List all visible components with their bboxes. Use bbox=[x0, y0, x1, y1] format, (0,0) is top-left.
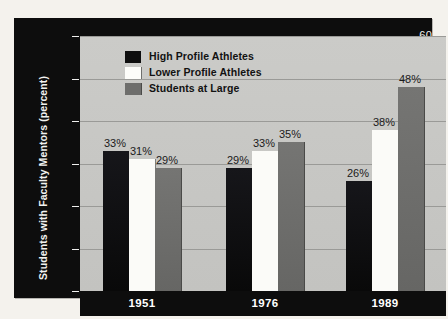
y-tick-mark bbox=[72, 121, 79, 122]
x-axis: 195119761989 bbox=[80, 291, 446, 316]
y-tick-mark bbox=[72, 249, 79, 250]
y-tick-mark bbox=[72, 164, 79, 165]
bar bbox=[103, 151, 129, 291]
bar bbox=[226, 168, 252, 291]
legend-label-high-profile-athletes: High Profile Athletes bbox=[149, 50, 254, 62]
bar bbox=[372, 130, 399, 292]
y-tick-mark bbox=[72, 206, 79, 207]
bar-value-label: 29% bbox=[156, 154, 178, 166]
figure-frame: Students with Faculty Mentors (percent) … bbox=[14, 18, 432, 298]
legend-swatch-icon-high-profile-athletes bbox=[125, 51, 141, 63]
bar bbox=[252, 151, 279, 291]
y-axis-title: Students with Faculty Mentors (percent) bbox=[37, 76, 49, 280]
legend-label-students-at-large: Students at Large bbox=[149, 82, 239, 94]
bar bbox=[278, 142, 305, 291]
bar-value-label: 35% bbox=[279, 128, 301, 140]
bar-value-label: 33% bbox=[104, 137, 126, 149]
bar bbox=[155, 168, 182, 291]
plot-area: 33%31%29%29%33%35%26%38%48% High Profile… bbox=[80, 36, 446, 291]
y-tick-mark bbox=[72, 79, 79, 80]
legend-swatch-icon-lower-profile-athletes bbox=[125, 67, 142, 79]
chart-screenshot: Students with Faculty Mentors (percent) … bbox=[0, 0, 448, 319]
bar-value-label: 29% bbox=[227, 154, 249, 166]
bar-value-label: 38% bbox=[373, 116, 395, 128]
bar bbox=[398, 87, 425, 291]
bar-value-label: 33% bbox=[253, 137, 275, 149]
bar bbox=[129, 159, 156, 291]
bar-value-label: 31% bbox=[130, 145, 152, 157]
gridline bbox=[80, 36, 446, 37]
legend-label-lower-profile-athletes: Lower Profile Athletes bbox=[149, 66, 262, 78]
x-tick-label-1951: 1951 bbox=[112, 297, 172, 309]
bar bbox=[346, 181, 372, 292]
x-tick-label-1976: 1976 bbox=[235, 297, 295, 309]
x-tick-label-1989: 1989 bbox=[355, 297, 415, 309]
y-tick-mark bbox=[72, 36, 79, 37]
y-tick-mark bbox=[72, 291, 79, 292]
bar-value-label: 48% bbox=[399, 73, 421, 85]
bar-value-label: 26% bbox=[347, 167, 369, 179]
legend-swatch-icon-students-at-large bbox=[125, 83, 142, 95]
